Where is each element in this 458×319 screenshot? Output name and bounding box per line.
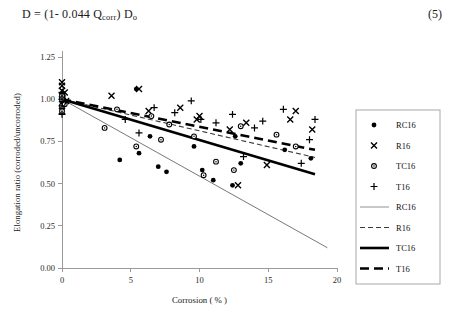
x-tick-label: 15: [264, 275, 273, 285]
data-point: [251, 124, 258, 131]
x-tick-label: 5: [129, 275, 133, 285]
data-point: [230, 183, 235, 188]
data-points-layer: [59, 79, 319, 188]
data-point: [238, 161, 243, 166]
equation-text: D = (1- 0.044 Qcorr) Do: [22, 7, 137, 22]
y-axis-title: Elongation ratio (corroded/uncorroded): [12, 93, 22, 232]
data-point: [136, 129, 143, 136]
legend-marker-icon: [372, 123, 377, 128]
data-point: [137, 151, 142, 156]
data-point: [309, 127, 315, 133]
data-point: [287, 116, 293, 122]
equation-subscript-o: o: [133, 12, 137, 22]
data-point: [298, 160, 305, 167]
legend-label: TC16: [396, 161, 415, 171]
data-point: [312, 116, 319, 123]
legend-label: R16: [396, 223, 410, 233]
legend-label: R16: [396, 141, 410, 151]
equation-subscript-corr: corr: [102, 12, 116, 22]
y-tick-label: 1.25: [40, 52, 55, 62]
legend-label: RC16: [396, 120, 416, 130]
elongation-ratio-scatter-chart: 0.000.250.500.751.001.2505101520Corrosio…: [0, 30, 458, 319]
legend-box: [356, 110, 440, 284]
data-point: [146, 108, 152, 114]
data-point: [197, 113, 203, 119]
data-point: [306, 136, 313, 143]
legend-label: T16: [396, 264, 410, 274]
data-point: [235, 182, 241, 188]
data-point: [293, 108, 299, 114]
data-point: [280, 106, 287, 113]
equation-body: D = (1- 0.044 Q: [22, 7, 102, 21]
data-point: [243, 120, 249, 126]
data-point: [148, 134, 153, 139]
data-point: [188, 97, 195, 104]
data-point: [282, 147, 287, 152]
data-point: [177, 105, 183, 111]
axes-layer: [58, 51, 337, 272]
y-tick-label: 0.50: [40, 179, 55, 189]
chart-legend: RC16R16TC16T16RC16R16TC16T16: [356, 110, 440, 284]
data-point: [259, 118, 266, 125]
data-point: [156, 164, 161, 169]
data-point: [211, 178, 216, 183]
legend-label: T16: [396, 182, 410, 192]
y-tick-label: 0.00: [40, 263, 55, 273]
y-tick-label: 1.00: [40, 94, 55, 104]
data-point: [192, 144, 197, 149]
x-tick-label: 20: [333, 275, 342, 285]
legend-label: RC16: [396, 202, 416, 212]
data-point: [200, 168, 205, 173]
figure-page: D = (1- 0.044 Qcorr) Do (5) 0.000.250.50…: [0, 0, 458, 319]
equation-row: D = (1- 0.044 Qcorr) Do (5): [0, 0, 458, 34]
legend-label: TC16: [396, 243, 415, 253]
equation-number: (5): [428, 7, 442, 22]
x-axis-title: Corrosion ( % ): [172, 295, 227, 305]
chart-container: 0.000.250.500.751.001.2505101520Corrosio…: [0, 30, 458, 319]
data-point: [233, 134, 238, 139]
x-tick-label: 10: [195, 275, 204, 285]
data-point: [117, 158, 122, 163]
data-point: [229, 111, 236, 118]
y-tick-label: 0.75: [40, 136, 55, 146]
data-point: [308, 156, 313, 161]
equation-body-tail: ) D: [117, 7, 133, 21]
y-tick-label: 0.25: [40, 221, 55, 231]
data-point: [109, 93, 115, 99]
data-point: [164, 169, 169, 174]
x-tick-label: 0: [60, 275, 64, 285]
data-point: [264, 162, 270, 168]
trendline-t16: [62, 99, 315, 150]
trendline-r16: [62, 99, 315, 157]
data-point: [213, 119, 220, 126]
data-point: [151, 104, 158, 111]
